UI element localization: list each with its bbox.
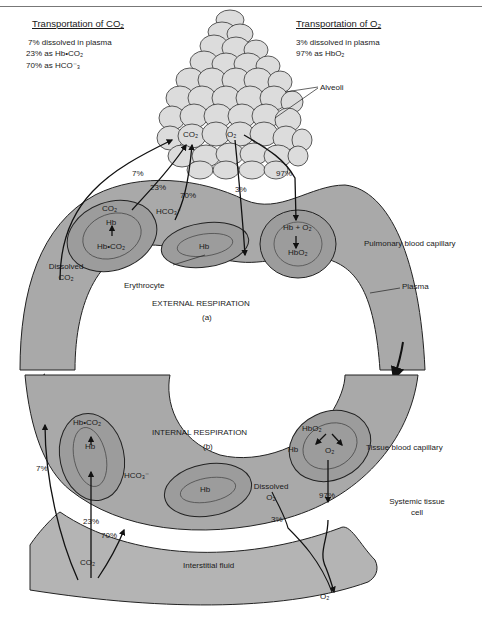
internal-respiration-sub: (b): [203, 441, 213, 452]
ext-70pct: 70%: [180, 190, 196, 201]
ext-rbc-hb-o2: Hb + O₂: [283, 222, 312, 233]
co2-transport-line-1: 7% dissolved in plasma: [28, 37, 112, 48]
external-respiration-sub: (a): [202, 312, 212, 323]
ext-rbc-hbo2: HbO₂: [288, 247, 308, 258]
co2-transport-line-2: 23% as Hb•CO₂: [26, 48, 83, 59]
int-23pct: 23%: [83, 516, 99, 527]
interstitial-fluid-label: Interstitial fluid: [183, 560, 234, 571]
int-7pct: 7%: [36, 463, 48, 474]
ext-rbc-right: [260, 210, 336, 278]
ext-o2-label: O₂: [227, 129, 236, 140]
ext-3pct: 3%: [235, 184, 247, 195]
ext-rbc-center-hb: Hb: [199, 241, 209, 252]
int-70pct: 70%: [101, 530, 117, 541]
alveoli-label: Alveoli: [320, 82, 344, 93]
o2-transport-title: Transportation of O₂: [296, 18, 381, 29]
int-co2-label: CO₂: [80, 557, 95, 568]
external-respiration-title: EXTERNAL RESPIRATION: [152, 298, 250, 309]
tissue-capillary-label: Tissue blood capillary: [366, 442, 443, 453]
ext-hco3: HCO₃⁻: [156, 206, 181, 217]
o2-transport-line-2: 97% as HbO₂: [296, 48, 344, 59]
int-rbc-hbco2: Hb•CO₂: [73, 417, 101, 428]
pulmonary-capillary-label: Pulmonary blood capillary: [364, 238, 456, 249]
int-rbc-hb: Hb: [85, 441, 95, 452]
ext-7pct: 7%: [132, 168, 144, 179]
internal-respiration-title: INTERNAL RESPIRATION: [152, 427, 247, 438]
ext-rbc-co2: CO₂: [102, 203, 117, 214]
dissolved-co2-label: Dissolved CO₂: [46, 261, 86, 283]
ext-23pct: 23%: [150, 182, 166, 193]
erythrocyte-label: Erythrocyte: [124, 280, 164, 291]
ext-97pct: 97%: [276, 168, 292, 179]
dissolved-o2-label: Dissolved O₂: [251, 481, 291, 503]
ext-rbc-hb: Hb: [106, 217, 116, 228]
int-3pct: 3%: [271, 514, 283, 525]
systemic-cell-label: Systemic tissue cell: [380, 496, 454, 518]
int-97pct: 97%: [319, 490, 335, 501]
int-rbc-center-hb: Hb: [200, 484, 210, 495]
int-o2-label: O₂: [320, 591, 329, 602]
int-rbc-hbo2: HbO₂: [302, 423, 322, 434]
int-rbc-right-o2: O₂: [325, 445, 334, 456]
plasma-label: Plasma: [402, 281, 429, 292]
co2-transport-line-3: 70% as HCO⁻₃: [26, 60, 80, 71]
ext-rbc-hbco2: Hb•CO₂: [97, 241, 125, 252]
o2-transport-line-1: 3% dissolved in plasma: [296, 37, 380, 48]
ext-co2-label: CO₂: [183, 129, 198, 140]
int-hco3: HCO₃⁻: [124, 470, 149, 481]
int-rbc-right-hb: Hb: [288, 444, 298, 455]
co2-transport-title: Transportation of CO₂: [32, 18, 124, 29]
